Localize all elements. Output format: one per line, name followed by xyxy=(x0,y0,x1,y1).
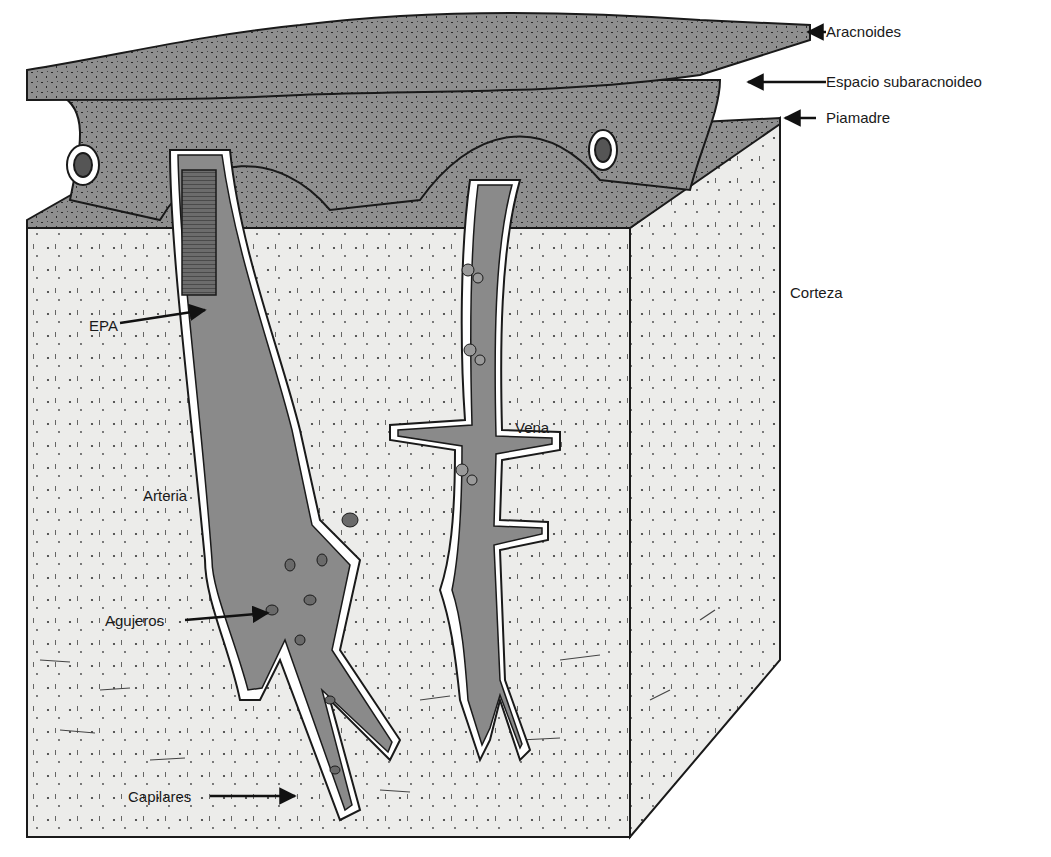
vessel-cross-section-right xyxy=(589,130,617,170)
meninges-cortex-diagram: Aracnoides Espacio subaracnoideo Piamadr… xyxy=(0,0,1051,857)
vessel-cross-section-left xyxy=(67,145,99,185)
epa-segment xyxy=(182,170,216,295)
label-epa: EPA xyxy=(89,318,118,333)
label-corteza: Corteza xyxy=(790,285,843,300)
label-agujeros: Agujeros xyxy=(105,613,164,628)
label-piamadre: Piamadre xyxy=(826,110,890,125)
label-arteria: Arteria xyxy=(143,488,187,503)
label-capilares: Capilares xyxy=(128,789,191,804)
label-vena: Vena xyxy=(515,420,549,435)
label-aracnoides: Aracnoides xyxy=(826,24,901,39)
cortex-side-face xyxy=(630,118,780,837)
label-espacio-subaracnoideo: Espacio subaracnoideo xyxy=(826,74,982,89)
